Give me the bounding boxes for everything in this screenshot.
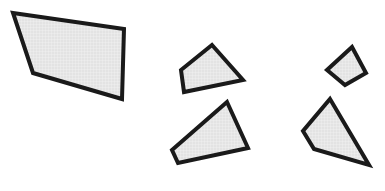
shape-canvas — [0, 0, 385, 191]
shape-canvas-container — [0, 0, 385, 191]
